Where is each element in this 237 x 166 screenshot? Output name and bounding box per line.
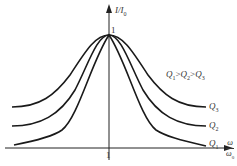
peak-value-label: 1 [111, 26, 116, 35]
x-axis-label: ω ω0 [226, 139, 234, 160]
x-tick-label: 1 [106, 151, 111, 160]
y-axis-arrow-icon [106, 4, 112, 13]
curve-label-q1: Q1 [209, 139, 219, 150]
q-relation-label: Q1>Q2>Q3 [166, 70, 205, 81]
y-axis-label: I/I0 [115, 6, 127, 17]
curve-label-q3: Q3 [209, 102, 219, 113]
resonance-curve-diagram [0, 0, 237, 166]
curve-q1 [14, 35, 206, 146]
curve-label-q2: Q2 [209, 121, 219, 132]
